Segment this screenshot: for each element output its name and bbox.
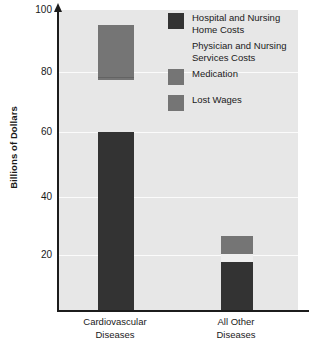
- legend: Hospital and Nursing Home Costs Physicia…: [168, 12, 302, 116]
- legend-label-lost-wages: Lost Wages: [192, 94, 242, 106]
- x-axis-line: [57, 310, 309, 312]
- gridline-20: [58, 255, 298, 256]
- x-category-label-line2: Diseases: [186, 329, 286, 342]
- legend-swatch-icon-lost-wages: [168, 95, 184, 111]
- legend-swatch-icon-medication: [168, 69, 184, 85]
- y-tick-label-40: 40: [26, 192, 52, 202]
- bar-chart-figure: Billions of Dollars 100 80 60 40 20 Hosp…: [0, 0, 311, 346]
- x-category-label-all-other-diseases: All Other Diseases: [186, 316, 286, 341]
- legend-item-physician-nursing-services-costs[interactable]: Physician and Nursing Services Costs: [168, 40, 302, 63]
- bar-cardiovascular-segment-lost-wages: [98, 25, 134, 80]
- bar-all-other-segment-physician-nursing-services-costs: [221, 254, 253, 262]
- gridline-60: [58, 132, 298, 133]
- legend-item-medication[interactable]: Medication: [168, 68, 302, 85]
- bar-all-other-segment-medication: [221, 236, 253, 254]
- bar-cardiovascular-segment-hospital-nursing-home-costs: [98, 132, 134, 310]
- legend-label-physician-nursing-services-costs: Physician and Nursing Services Costs: [192, 40, 287, 63]
- y-tick-label-80: 80: [26, 67, 52, 77]
- x-category-label-line2: Diseases: [55, 329, 175, 342]
- x-category-label-line1: All Other: [186, 316, 286, 329]
- x-category-label-line1: Cardiovascular: [55, 316, 175, 329]
- y-axis-arrow-icon: [54, 3, 62, 12]
- x-category-label-cardiovascular-diseases: Cardiovascular Diseases: [55, 316, 175, 341]
- y-tick-label-60: 60: [26, 127, 52, 137]
- bar-cardiovascular-segment-divider: [98, 77, 134, 78]
- y-axis-line: [57, 10, 59, 311]
- y-tick-label-20: 20: [26, 250, 52, 260]
- legend-label-medication: Medication: [192, 68, 238, 80]
- bar-all-other-segment-hospital-nursing-home-costs: [221, 262, 253, 310]
- legend-swatch-icon-physician-nursing-services-costs: [168, 41, 184, 57]
- y-axis-title: Billions of Dollars: [8, 83, 19, 213]
- legend-item-hospital-nursing-home-costs[interactable]: Hospital and Nursing Home Costs: [168, 12, 302, 35]
- legend-swatch-icon-hospital-nursing-home-costs: [168, 13, 184, 29]
- legend-item-lost-wages[interactable]: Lost Wages: [168, 94, 302, 111]
- legend-label-hospital-nursing-home-costs: Hospital and Nursing Home Costs: [192, 12, 280, 35]
- gridline-40: [58, 197, 298, 198]
- y-tick-label-100: 100: [26, 5, 52, 15]
